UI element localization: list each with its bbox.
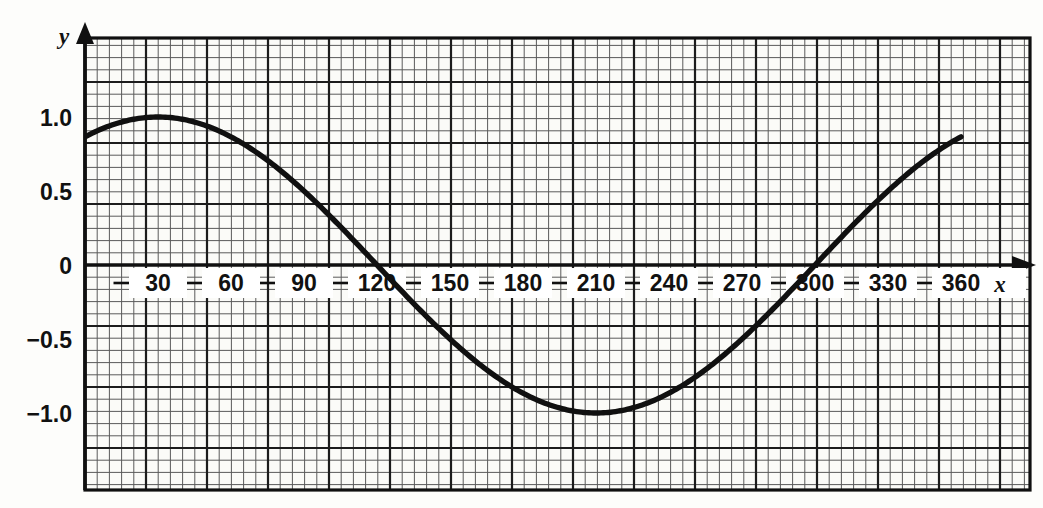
- x-tick-label: 270: [723, 270, 761, 296]
- y-axis-label: y: [56, 24, 70, 49]
- y-tick-label: 0: [59, 253, 72, 279]
- chart-canvas: 306090120150180210240270300330360 1.00.5…: [0, 0, 1043, 508]
- y-tick-label: −1.0: [27, 401, 72, 427]
- x-axis-label: x: [993, 272, 1006, 297]
- graph-figure: 306090120150180210240270300330360 1.00.5…: [0, 0, 1043, 508]
- x-tick-label: 90: [291, 270, 317, 296]
- x-tick-label: 330: [869, 270, 907, 296]
- y-tick-label: −0.5: [27, 327, 73, 353]
- x-tick-label: 150: [431, 270, 469, 296]
- x-tick-label: 210: [577, 270, 615, 296]
- x-tick-label: 30: [145, 270, 171, 296]
- x-tick-label: 240: [650, 270, 688, 296]
- y-tick-label: 0.5: [40, 179, 72, 205]
- y-tick-label: 1.0: [40, 105, 72, 131]
- x-tick-label: 60: [218, 270, 244, 296]
- x-tick-label: 360: [942, 270, 980, 296]
- x-tick-label: 180: [504, 270, 542, 296]
